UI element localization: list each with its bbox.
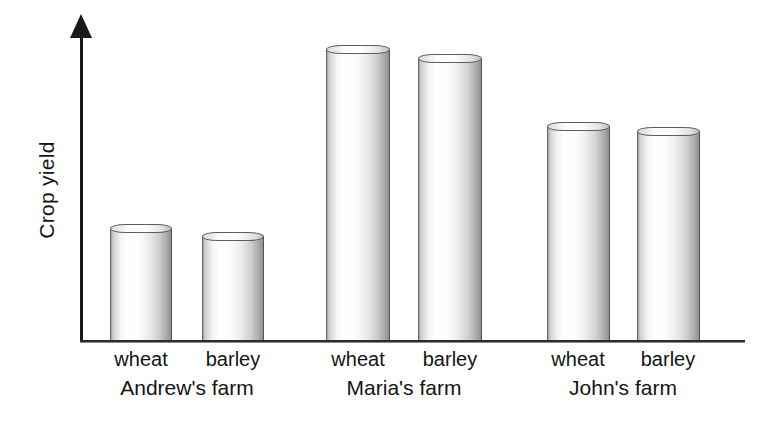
x-tick-label-andrew-barley: barley: [173, 348, 293, 371]
bar-top-ellipse: [202, 232, 264, 241]
x-tick-label-john-barley: barley: [608, 348, 728, 371]
x-axis-line: [80, 340, 745, 342]
x-group-label-johns-farm: John's farm: [513, 376, 733, 400]
bar-top-ellipse: [110, 224, 172, 233]
bar-top-ellipse: [326, 45, 390, 54]
bar-maria-barley: [418, 59, 482, 342]
x-group-label-andrews-farm: Andrew's farm: [77, 376, 297, 400]
bar-top-ellipse: [418, 54, 482, 63]
bar-andrew-wheat: [110, 229, 172, 342]
x-tick-label-maria-barley: barley: [390, 348, 510, 371]
crop-yield-bar-chart: Crop yield wheat barley wheat barley whe…: [0, 0, 772, 439]
bar-john-wheat: [547, 127, 610, 342]
bar-john-barley: [637, 132, 700, 342]
bar-top-ellipse: [547, 122, 610, 131]
bar-top-ellipse: [637, 127, 700, 136]
bar-andrew-barley: [202, 237, 264, 342]
bar-maria-wheat: [326, 50, 390, 342]
x-group-label-marias-farm: Maria's farm: [294, 376, 514, 400]
bars-layer: [0, 0, 772, 439]
